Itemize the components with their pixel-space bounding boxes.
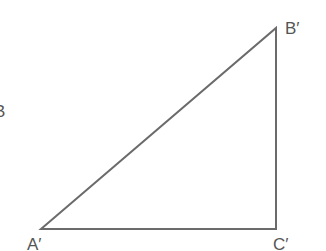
triangle-abc-prime [41, 28, 276, 229]
label-c-prime: C′ [273, 236, 288, 251]
label-b-prime: B′ [285, 20, 300, 37]
label-partial-b: B [0, 103, 5, 120]
triangle-figure [0, 0, 326, 251]
label-a-prime: A′ [27, 236, 42, 251]
